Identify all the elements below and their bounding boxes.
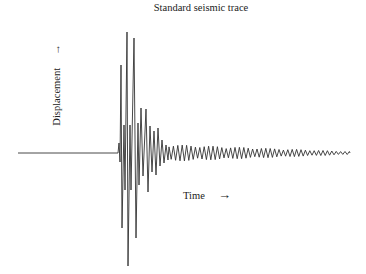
seismic-trace-plot [0, 0, 366, 274]
seismic-trace-line [18, 32, 350, 266]
